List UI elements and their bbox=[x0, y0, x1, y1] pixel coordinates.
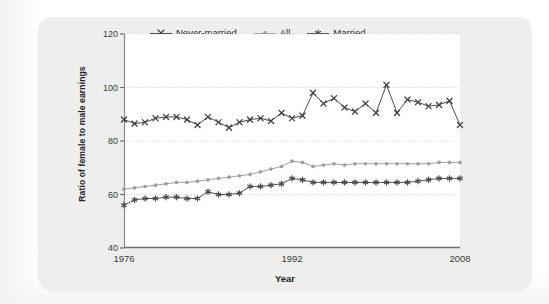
y-tick-label-40: 40 bbox=[92, 243, 118, 253]
y-axis-tick-labels: 406080100120 bbox=[90, 34, 118, 248]
x-axis-tick-labels: 197619922008 bbox=[124, 253, 460, 267]
x-axis-title: Year bbox=[38, 273, 532, 284]
y-tick-label-80: 80 bbox=[92, 136, 118, 146]
y-tick-label-60: 60 bbox=[92, 190, 118, 200]
x-tick-label-1976: 1976 bbox=[113, 253, 134, 264]
y-tick-label-100: 100 bbox=[92, 83, 118, 93]
y-axis-title: Ratio of female to male earnings bbox=[77, 54, 87, 214]
chart-canvas bbox=[124, 34, 460, 248]
scan-shading-left bbox=[0, 0, 42, 304]
chart-figure-card: Never-marriedAllMarried Ratio of female … bbox=[38, 17, 532, 291]
x-tick-label-1992: 1992 bbox=[281, 253, 302, 264]
x-tick-label-2008: 2008 bbox=[449, 253, 470, 264]
plot-area bbox=[124, 34, 460, 248]
y-tick-label-120: 120 bbox=[92, 29, 118, 39]
